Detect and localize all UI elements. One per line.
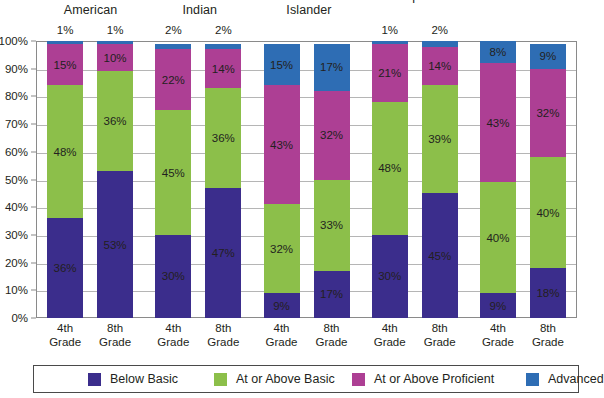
legend-item[interactable]: Below Basic [88,372,178,386]
y-axis-label: 100% [0,35,28,47]
bar-segment: 9% [264,293,300,318]
bar-value-label: 43% [270,139,293,151]
bar-segment: 48% [47,85,83,218]
bar-segment: 32% [530,69,566,158]
bar-segment: 15% [47,44,83,86]
bar: 17%33%32%17% [314,41,350,318]
bar-segment: 9% [480,293,516,318]
bar: 30%48%21% [372,41,408,318]
bar-segment: 36% [205,88,241,188]
bar-segment: 17% [314,271,350,318]
x-axis-tick-label-line: Grade [302,336,362,350]
bar-segment: 36% [97,71,133,171]
bar-segment: 30% [155,235,191,318]
group-header-line: White [473,0,582,4]
bar-segment: 39% [422,85,458,193]
group-header: Asian/PacificIslander [254,0,363,26]
bar-value-label: 48% [378,162,401,174]
bar-value-label: 15% [270,59,293,71]
bar-segment: 21% [372,44,408,102]
y-axis-label: 50% [5,174,28,186]
group-header-line: Hispanic [364,0,473,4]
legend-swatch-icon [214,373,227,386]
legend-swatch-icon [352,373,365,386]
x-axis-tick-label-line: Grade [410,336,470,350]
bar: 9%40%43%8% [480,41,516,318]
bar-value-label: 40% [536,207,559,219]
bar-value-label: 39% [428,133,451,145]
bar-value-label: 17% [320,61,343,73]
legend-item[interactable]: Advanced [526,372,604,386]
legend-item[interactable]: At or Above Proficient [352,372,494,386]
x-axis-tick-label: 8thGrade [302,322,362,349]
bar-top-value-label: 2% [205,24,241,36]
bar-segment: 40% [480,182,516,293]
chart-legend: Below BasicAt or Above BasicAt or Above … [33,365,579,393]
group-header-line: Islander [254,4,363,18]
bar-value-label: 9% [540,50,557,62]
legend-swatch-icon [526,373,539,386]
bar-segment: 22% [155,49,191,110]
x-axis-tick-label-line: 8th [518,322,578,336]
bar-value-label: 36% [54,262,77,274]
x-axis-tick-label: 8thGrade [193,322,253,349]
bar: 9%32%43%15% [264,41,300,318]
x-axis-tick-labels: 4thGrade8thGrade4thGrade8thGrade4thGrade… [36,322,577,356]
y-axis-label: 0% [11,312,28,324]
bar-segment: 32% [314,91,350,180]
bar-value-label: 36% [104,115,127,127]
bar-value-label: 32% [320,129,343,141]
x-axis-tick-label-line: 8th [410,322,470,336]
bar: 53%36%10% [97,41,133,318]
bar-segment [155,44,191,50]
bar-top-value-label: 2% [422,24,458,36]
group-header-line: American [36,4,145,18]
bar-segment: 17% [314,44,350,91]
legend-label: At or Above Basic [236,372,335,386]
legend-item[interactable]: At or Above Basic [214,372,335,386]
bar-value-label: 36% [212,132,235,144]
bar-segment: 33% [314,180,350,271]
bar-value-label: 14% [212,63,235,75]
x-axis-tick-label-line: 8th [193,322,253,336]
bar-segment [205,44,241,50]
y-axis-label: 80% [5,90,28,102]
bar-value-label: 15% [54,59,77,71]
legend-swatch-icon [88,373,101,386]
bar: 47%36%14% [205,41,241,318]
bar-segment: 48% [372,102,408,235]
bar-segment: 43% [264,85,300,204]
group-header: AmericanIndian [145,0,254,26]
bar-segment: 10% [97,44,133,72]
x-axis-tick-label: 8thGrade [518,322,578,349]
bar-value-label: 47% [212,247,235,259]
y-axis-label: 10% [5,284,28,296]
x-axis-tick-label-line: Grade [518,336,578,350]
bar: 30%45%22% [155,41,191,318]
bar-segment: 14% [205,49,241,88]
bar-value-label: 30% [378,270,401,282]
bar-value-label: 40% [486,232,509,244]
bar: 18%40%32%9% [530,41,566,318]
bar-value-label: 21% [378,67,401,79]
group-header: Hispanic [364,0,473,26]
bar-top-value-label: 1% [97,24,133,36]
bar-value-label: 53% [104,239,127,251]
x-axis-tick-label: 8thGrade [85,322,145,349]
bar-value-label: 22% [162,74,185,86]
legend-label: At or Above Proficient [374,372,494,386]
bar-segment: 32% [264,204,300,293]
x-axis-tick-label: 8thGrade [410,322,470,349]
bar-segment: 14% [422,47,458,86]
y-axis-label: 30% [5,229,28,241]
y-axis-label: 60% [5,146,28,158]
bar-segment: 30% [372,235,408,318]
bar-value-label: 43% [486,117,509,129]
bar-value-label: 48% [54,146,77,158]
bar-value-label: 30% [162,270,185,282]
bar-value-label: 18% [536,287,559,299]
y-axis: 0%10%20%30%40%50%60%70%80%90%100% [0,41,36,318]
y-axis-label: 40% [5,201,28,213]
bar-segment: 18% [530,268,566,318]
